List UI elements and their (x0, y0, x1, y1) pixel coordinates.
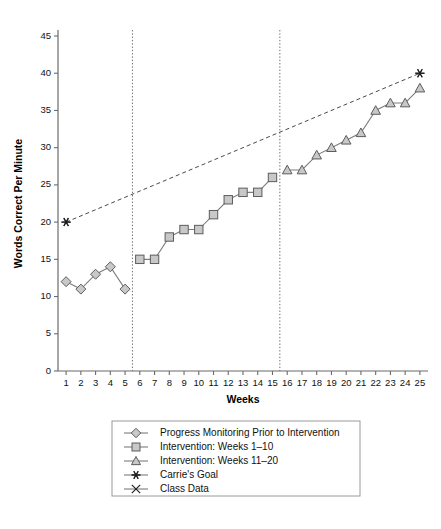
x-tick-label-7: 7 (152, 377, 157, 388)
data-point-2-19 (327, 143, 337, 152)
y-axis-title: Words Correct Per Minute (12, 139, 24, 268)
data-point-1-15 (268, 173, 276, 181)
series-line-2 (287, 88, 420, 170)
legend-label-3: Carrie's Goal (160, 469, 218, 480)
series-line-3 (66, 73, 420, 222)
y-tick-label-40: 40 (40, 67, 51, 78)
x-tick-label-3: 3 (93, 377, 98, 388)
y-tick-label-5: 5 (46, 327, 51, 338)
x-tick-label-11: 11 (209, 377, 219, 388)
data-point-3-1 (62, 218, 71, 226)
data-point-1-6 (136, 255, 144, 263)
data-point-2-20 (341, 135, 351, 144)
series-line-1 (140, 177, 273, 259)
data-point-0-1 (61, 277, 71, 287)
y-tick-label-30: 30 (40, 141, 51, 152)
x-tick-label-12: 12 (223, 377, 234, 388)
legend-marker-square-icon (132, 443, 140, 451)
legend-label-2: Intervention: Weeks 11–20 (160, 455, 278, 466)
y-tick-label-45: 45 (40, 30, 51, 41)
y-tick-label-15: 15 (40, 253, 51, 264)
y-tick-label-10: 10 (40, 290, 51, 301)
data-point-3-25 (415, 69, 424, 77)
data-point-1-8 (165, 233, 173, 241)
x-tick-label-23: 23 (385, 377, 396, 388)
x-tick-label-24: 24 (400, 377, 411, 388)
x-tick-label-22: 22 (370, 377, 381, 388)
x-tick-label-10: 10 (193, 377, 204, 388)
x-tick-label-6: 6 (137, 377, 142, 388)
y-tick-label-0: 0 (46, 365, 51, 376)
progress-monitoring-chart: 0510152025303540451234567891011121314151… (0, 0, 441, 529)
x-tick-label-8: 8 (167, 377, 172, 388)
x-tick-label-1: 1 (63, 377, 68, 388)
y-tick-label-20: 20 (40, 216, 51, 227)
data-point-1-7 (150, 255, 158, 263)
data-point-1-14 (254, 188, 262, 196)
x-tick-label-18: 18 (311, 377, 322, 388)
data-point-2-25 (415, 83, 425, 92)
x-tick-label-13: 13 (238, 377, 249, 388)
data-point-1-11 (209, 210, 217, 218)
x-tick-label-4: 4 (108, 377, 113, 388)
x-tick-label-2: 2 (78, 377, 83, 388)
y-tick-label-35: 35 (40, 104, 51, 115)
legend-label-1: Intervention: Weeks 1–10 (160, 441, 274, 452)
x-tick-label-20: 20 (341, 377, 352, 388)
x-tick-label-21: 21 (356, 377, 367, 388)
x-tick-label-16: 16 (282, 377, 293, 388)
x-tick-label-19: 19 (326, 377, 337, 388)
legend-label-4: Class Data (160, 483, 209, 494)
data-point-2-22 (371, 106, 381, 115)
chart-page: 0510152025303540451234567891011121314151… (0, 0, 441, 529)
x-tick-label-5: 5 (122, 377, 127, 388)
data-point-1-9 (180, 225, 188, 233)
data-point-1-13 (239, 188, 247, 196)
data-point-2-18 (312, 150, 322, 159)
x-axis-title: Weeks (226, 393, 259, 405)
data-point-0-5 (120, 284, 130, 294)
x-tick-label-25: 25 (415, 377, 426, 388)
data-point-1-12 (224, 196, 232, 204)
y-tick-label-25: 25 (40, 178, 51, 189)
data-point-1-10 (195, 225, 203, 233)
x-tick-label-15: 15 (267, 377, 278, 388)
x-tick-label-14: 14 (252, 377, 263, 388)
legend-label-0: Progress Monitoring Prior to Interventio… (160, 427, 340, 438)
data-point-2-21 (356, 128, 366, 137)
data-point-0-4 (105, 262, 115, 272)
x-tick-label-17: 17 (297, 377, 308, 388)
x-tick-label-9: 9 (181, 377, 186, 388)
